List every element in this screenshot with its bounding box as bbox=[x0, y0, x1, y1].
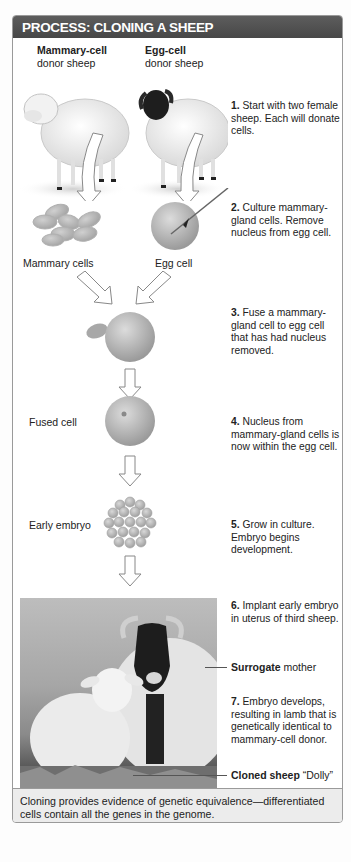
conclusion-footer: Cloning provides evidence of genetic equ… bbox=[13, 788, 342, 822]
nucleus-icon bbox=[122, 412, 127, 417]
egg-donor-rest: donor sheep bbox=[145, 57, 203, 69]
mammary-cells-label: Mammary cells bbox=[23, 257, 94, 270]
dolly-lamb-head bbox=[92, 668, 132, 712]
process-panel: PROCESS: CLONING A SHEEP Mammary-cell do… bbox=[12, 15, 343, 823]
embryo-illustration bbox=[103, 496, 183, 606]
fused-cell-label: Fused cell bbox=[29, 416, 77, 429]
egg-donor-label: Egg-cell donor sheep bbox=[145, 44, 203, 69]
fusion-illustration bbox=[53, 271, 203, 411]
step-4: 4. Nucleus from mammary-gland cells is n… bbox=[231, 416, 343, 454]
dolly-photo bbox=[20, 598, 217, 793]
step-1: 1. Start with two female sheep. Each wil… bbox=[231, 100, 343, 138]
step-2: 2. Culture mammary-gland cells. Remove n… bbox=[231, 202, 343, 240]
cells-illustration bbox=[23, 188, 233, 258]
panel-header: PROCESS: CLONING A SHEEP bbox=[13, 16, 342, 38]
mammary-donor-sheep-icon bbox=[18, 94, 129, 199]
early-embryo-icon bbox=[104, 497, 156, 548]
mammary-donor-bold: Mammary-cell bbox=[37, 44, 107, 56]
egg-cell-icon bbox=[105, 312, 155, 362]
step-7: 7. Embryo develops, resulting in lamb th… bbox=[231, 696, 343, 746]
early-embryo-label: Early embryo bbox=[29, 519, 91, 532]
mammary-donor-rest: donor sheep bbox=[37, 57, 95, 69]
surrogate-leader-line bbox=[205, 667, 227, 668]
egg-cell-label: Egg cell bbox=[155, 257, 192, 270]
surrogate-label: Surrogate mother bbox=[231, 661, 316, 674]
donor-sheep-illustration bbox=[13, 71, 228, 201]
cloned-sheep-label: Cloned sheep “Dolly” bbox=[231, 769, 333, 782]
egg-donor-sheep-icon bbox=[128, 90, 228, 199]
fused-cell-icon bbox=[105, 396, 155, 446]
mammary-donor-label: Mammary-cell donor sheep bbox=[37, 44, 107, 69]
arrow-down-icon bbox=[119, 456, 141, 486]
arrow-down-icon bbox=[119, 556, 141, 586]
dolly-leader-line bbox=[133, 775, 227, 776]
arrow-diag-left-icon bbox=[136, 271, 171, 304]
photo-illustration bbox=[20, 598, 217, 793]
arrow-diag-right-icon bbox=[77, 271, 112, 304]
step-6: 6. Implant early embryo in uterus of thi… bbox=[231, 600, 343, 625]
egg-donor-bold: Egg-cell bbox=[145, 44, 186, 56]
egg-cell-icon bbox=[151, 202, 199, 250]
step-3: 3. Fuse a mammary-gland cell to egg cell… bbox=[231, 307, 343, 357]
step-5: 5. Grow in culture. Embryo begins develo… bbox=[231, 519, 343, 557]
mammary-cells-icon bbox=[33, 201, 103, 246]
